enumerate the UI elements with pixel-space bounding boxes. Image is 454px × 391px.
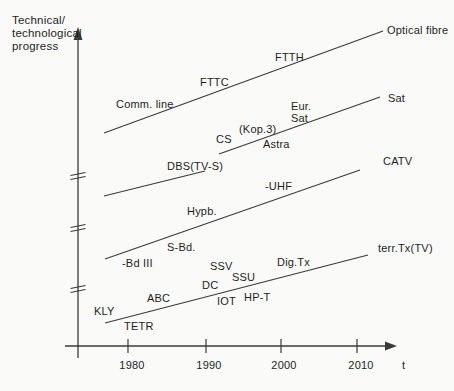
label-ssv: SSV	[210, 261, 233, 273]
series-label-catv: CATV	[383, 156, 412, 168]
series-label-sat: Sat	[388, 93, 405, 105]
progress-chart: Technical/ technological progress Comm. …	[0, 0, 454, 391]
label-tetr: TETR	[124, 321, 154, 333]
chart-canvas	[0, 0, 454, 391]
label-ftth: FTTH	[275, 52, 304, 64]
label-fttc: FTTC	[200, 77, 229, 89]
label-iot: IOT	[217, 296, 236, 308]
x-axis-arrow-icon	[385, 342, 397, 351]
label-hp-t: HP-T	[244, 292, 270, 304]
trend-line-catv	[105, 170, 360, 259]
x-axis-label: t	[402, 360, 405, 372]
trend-line-optical-fibre	[104, 31, 383, 133]
y-axis-title: Technical/ technological progress	[12, 14, 82, 53]
label-bd-iii: -Bd III	[122, 258, 153, 270]
x-tick-label-1980: 1980	[119, 360, 144, 372]
trend-line-sat-left	[104, 171, 205, 196]
series-label-optical-fibre: Optical fibre	[387, 25, 448, 37]
label-dbs-tv-s: DBS(TV-S)	[167, 161, 223, 173]
label-kop3: (Kop.3)	[239, 124, 276, 136]
label-uhf: -UHF	[265, 181, 292, 193]
label-dig-tx: Dig.Tx	[277, 257, 310, 269]
series-label-terr-tx: terr.Tx(TV)	[378, 243, 433, 255]
label-hypb: Hypb.	[187, 206, 217, 218]
x-tick-label-1990: 1990	[196, 360, 221, 372]
label-s-bd: S-Bd.	[167, 242, 196, 254]
label-comm-line: Comm. line	[116, 99, 174, 111]
label-cs: CS	[216, 134, 232, 146]
x-tick-label-2010: 2010	[348, 360, 373, 372]
x-tick-label-2000: 2000	[271, 360, 296, 372]
label-ssu: SSU	[232, 272, 255, 284]
label-eur-sat: Eur. Sat	[291, 101, 311, 124]
label-astra: Astra	[263, 139, 290, 151]
label-abc: ABC	[147, 293, 170, 305]
label-dc: DC	[202, 280, 218, 292]
label-kly: KLY	[94, 306, 115, 318]
